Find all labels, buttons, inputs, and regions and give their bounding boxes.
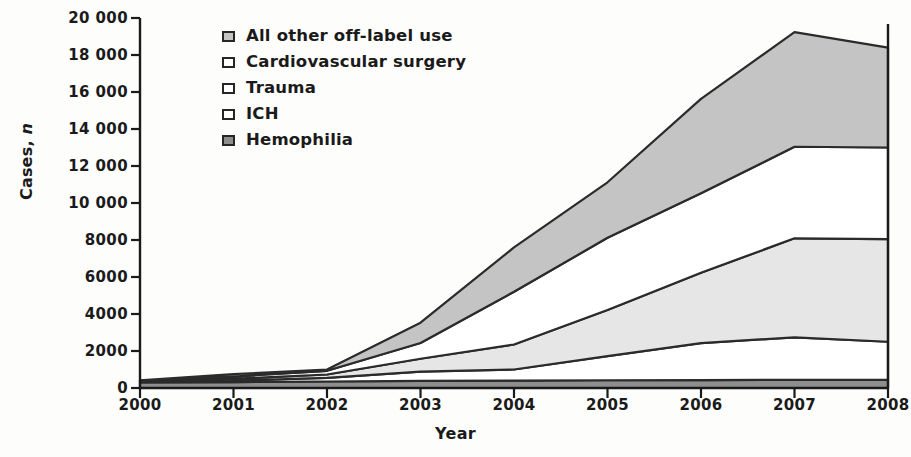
legend-item-label: Hemophilia	[246, 132, 353, 149]
legend-swatch-icon	[222, 135, 235, 146]
x-axis-title: Year	[0, 424, 911, 443]
x-tick-label: 2003	[379, 396, 463, 414]
legend-item-label: Cardiovascular surgery	[246, 54, 466, 71]
x-tick-label: 2005	[566, 396, 650, 414]
x-tick-label: 2002	[285, 396, 369, 414]
legend-item: Cardiovascular surgery	[222, 52, 466, 73]
x-tick-label: 2008	[846, 396, 911, 414]
x-tick-label: 2004	[472, 396, 556, 414]
legend-item: Trauma	[222, 78, 466, 99]
stacked-area-chart: Cases, n 0200040006000800010 00012 00014…	[0, 0, 911, 457]
legend-item-label: ICH	[246, 106, 279, 123]
legend-swatch-icon	[222, 57, 235, 68]
legend-item: ICH	[222, 104, 466, 125]
legend-swatch-icon	[222, 109, 235, 120]
legend-item-label: Trauma	[246, 80, 316, 97]
x-tick-label: 2001	[192, 396, 276, 414]
legend-swatch-icon	[222, 83, 235, 94]
x-tick-label: 2000	[98, 396, 182, 414]
legend-swatch-icon	[222, 31, 235, 42]
legend-item: All other off-label use	[222, 26, 466, 47]
x-tick-label: 2007	[753, 396, 837, 414]
chart-legend: All other off-label useCardiovascular su…	[222, 26, 466, 151]
legend-item: Hemophilia	[222, 130, 466, 151]
x-tick-label: 2006	[659, 396, 743, 414]
legend-item-label: All other off-label use	[246, 28, 453, 45]
